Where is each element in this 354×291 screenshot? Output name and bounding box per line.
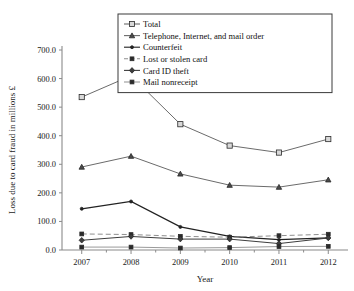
x-tick-label: 2008 [123, 258, 140, 267]
x-tick-label: 2012 [320, 258, 337, 267]
x-tick-label: 2011 [271, 258, 287, 267]
data-point-marker [227, 143, 232, 148]
data-point-marker [326, 136, 331, 141]
data-point-marker [130, 80, 134, 84]
data-point-marker [179, 225, 182, 228]
legend-label: Lost or stolen card [143, 54, 208, 64]
data-point-marker [131, 46, 134, 49]
x-tick-label: 2007 [73, 258, 90, 267]
chart-figure: 0.0100.0200.0300.0400.0500.0600.0700.0 2… [0, 0, 354, 291]
x-tick-label: 2010 [221, 258, 238, 267]
x-tick-label: 2009 [172, 258, 189, 267]
legend-item-telephone-internet-and-mail-order[interactable]: Telephone, Internet, and mail order [124, 31, 264, 41]
y-tick-label: 500.0 [37, 103, 56, 112]
y-tick-label: 700.0 [37, 46, 56, 55]
data-point-marker [80, 232, 84, 236]
data-point-marker [178, 246, 182, 250]
chart-legend: TotalTelephone, Internet, and mail order… [118, 14, 332, 93]
legend-label: Card ID theft [143, 66, 189, 76]
data-point-marker [277, 234, 281, 238]
data-point-marker [228, 246, 232, 250]
data-point-marker [80, 245, 84, 249]
legend-label: Total [143, 19, 161, 29]
y-tick-label: 600.0 [37, 75, 56, 84]
y-tick-label: 100.0 [37, 217, 56, 226]
data-point-marker [129, 21, 134, 26]
data-point-marker [178, 122, 183, 127]
y-tick-label: 0.0 [46, 246, 56, 255]
legend-label: Telephone, Internet, and mail order [143, 31, 264, 41]
y-axis-title: Loss due to card fraud in millions £ [7, 85, 17, 214]
data-point-marker [130, 200, 133, 203]
data-point-marker [326, 244, 330, 248]
legend-label: Counterfeit [143, 42, 183, 52]
data-point-marker [130, 57, 134, 61]
y-tick-label: 400.0 [37, 132, 56, 141]
data-point-marker [277, 245, 281, 249]
card-fraud-line-chart: 0.0100.0200.0300.0400.0500.0600.0700.0 2… [0, 0, 354, 291]
legend-label: Mail nonreceipt [143, 77, 198, 87]
data-point-marker [129, 245, 133, 249]
data-point-marker [79, 94, 84, 99]
x-axis-title: Year [197, 274, 214, 284]
y-tick-label: 300.0 [37, 160, 56, 169]
data-point-marker [80, 207, 83, 210]
data-point-marker [276, 150, 281, 155]
y-tick-label: 200.0 [37, 189, 56, 198]
